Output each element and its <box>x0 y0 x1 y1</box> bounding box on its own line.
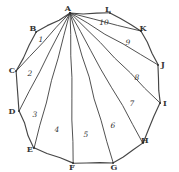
vertex-label-G: G <box>110 163 117 171</box>
region-label-7: 7 <box>130 100 135 108</box>
vertex-label-H: H <box>141 136 149 144</box>
polygon-edge-CD <box>16 71 19 111</box>
diagonal-AE <box>34 13 70 148</box>
vertex-label-C: C <box>9 66 16 74</box>
region-label-9: 9 <box>126 39 131 47</box>
vertex-label-F: F <box>69 163 75 171</box>
vertex-point-C <box>15 70 17 72</box>
region-label-6: 6 <box>111 122 116 130</box>
region-label-4: 4 <box>55 126 60 134</box>
vertex-point-I <box>159 102 161 104</box>
polygon-figure: ABCDEFGHIJKL 12345678910 <box>0 0 179 172</box>
polygon-edge-EF <box>34 148 73 163</box>
polygon-edge-KL <box>110 13 141 31</box>
vertex-label-I: I <box>163 99 167 107</box>
vertex-label-D: D <box>8 107 15 115</box>
polygon-edge-BC <box>16 32 36 71</box>
region-label-3: 3 <box>33 111 38 119</box>
vertex-label-K: K <box>139 24 146 32</box>
region-label-10: 10 <box>99 19 109 27</box>
vertex-label-B: B <box>30 24 37 32</box>
vertex-point-D <box>18 110 20 112</box>
region-label-2: 2 <box>28 70 33 78</box>
region-label-1: 1 <box>39 36 44 44</box>
polygon-edge-GH <box>113 143 143 163</box>
region-label-8: 8 <box>135 74 140 82</box>
polygon-edge-FG <box>73 163 113 164</box>
vertex-label-E: E <box>27 145 33 153</box>
vertex-label-L: L <box>105 5 111 13</box>
polygon-edge-LA <box>70 13 110 14</box>
diagonal-AF <box>70 13 73 163</box>
vertex-label-J: J <box>161 60 165 68</box>
diagonal-AH <box>70 13 143 143</box>
region-label-5: 5 <box>84 131 89 139</box>
vertex-label-A: A <box>65 4 71 12</box>
vertex-point-J <box>157 64 159 66</box>
vertex-point-E <box>33 147 35 149</box>
polygon-edge-IJ <box>158 65 160 103</box>
